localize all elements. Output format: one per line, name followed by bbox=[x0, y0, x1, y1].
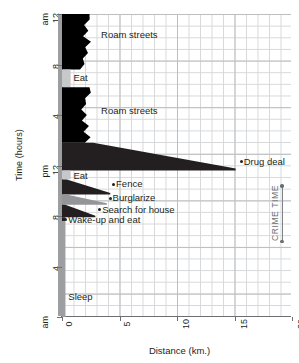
band-roam-streets-night bbox=[62, 14, 91, 70]
plot-area: Roam streetsEatRoam streetsDrug dealEatF… bbox=[61, 14, 291, 317]
x-axis-title: Distance (km.) bbox=[60, 345, 299, 356]
label-eat-morning: Eat bbox=[74, 72, 88, 83]
marker-drug-deal bbox=[240, 160, 243, 163]
x-tick-2 bbox=[177, 317, 178, 321]
label-sleep: Sleep bbox=[68, 291, 92, 302]
y-tick-sublabel-6: am bbox=[40, 316, 50, 356]
crime-time-label: CRIME TIME bbox=[270, 186, 280, 242]
band-burglarize bbox=[62, 195, 107, 205]
band-roam-streets-day bbox=[62, 87, 91, 143]
x-tick-1 bbox=[120, 317, 121, 321]
x-tick-label-0: 0 bbox=[64, 321, 74, 326]
y-tick-0 bbox=[57, 14, 62, 15]
band-drug-deal bbox=[62, 143, 236, 171]
y-tick-3 bbox=[57, 166, 62, 167]
label-wake-up-and-eat: Wake-up and eat bbox=[68, 214, 140, 225]
y-tick-4 bbox=[57, 216, 62, 217]
x-tick-0 bbox=[62, 317, 63, 321]
y-tick-sublabel-0: am bbox=[40, 13, 50, 53]
y-tick-2 bbox=[57, 115, 62, 116]
x-tick-label-4: 20 bbox=[296, 319, 299, 329]
marker-fence bbox=[112, 183, 115, 186]
band-fence bbox=[62, 179, 110, 194]
x-tick-label-3: 15 bbox=[239, 319, 249, 329]
x-tick-label-1: 5 bbox=[121, 321, 131, 326]
activity-time-distance-chart: Time (hours) 12am8412pm84am Roam streets… bbox=[0, 0, 299, 363]
band-eat-morning bbox=[62, 70, 71, 88]
crime-time-cap-bottom bbox=[280, 240, 283, 243]
label-fence: Fence bbox=[116, 178, 142, 189]
label-eat-afternoon: Eat bbox=[74, 170, 88, 181]
crime-time-cap-top bbox=[280, 184, 283, 187]
label-roam-streets-night: Roam streets bbox=[101, 29, 158, 40]
y-tick-1 bbox=[57, 65, 62, 66]
band-eat-afternoon bbox=[62, 171, 71, 180]
label-drug-deal: Drug deal bbox=[244, 156, 285, 167]
label-burglarize: Burglarize bbox=[113, 192, 156, 203]
x-tick-3 bbox=[235, 317, 236, 321]
crime-time-bracket-line bbox=[282, 186, 283, 242]
x-tick-4 bbox=[292, 317, 293, 321]
y-tick-5 bbox=[57, 267, 62, 268]
marker-burglarize bbox=[109, 197, 112, 200]
band-sleep bbox=[62, 221, 65, 317]
y-axis-title: Time (hours) bbox=[14, 110, 24, 200]
y-tick-sublabel-3: pm bbox=[40, 165, 50, 205]
label-roam-streets-day: Roam streets bbox=[101, 105, 158, 116]
x-tick-label-2: 10 bbox=[181, 319, 191, 329]
